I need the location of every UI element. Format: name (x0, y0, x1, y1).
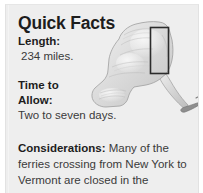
fact-time-label-line1: Time to (18, 78, 199, 93)
page-title: Quick Facts (18, 13, 199, 33)
fact-time-label-line2: Allow: (18, 93, 199, 108)
quick-facts-panel: Quick Facts Length: 234 miles. Time to A… (0, 0, 203, 193)
panel-background: Quick Facts Length: 234 miles. Time to A… (5, 4, 199, 193)
fact-length: Length: 234 miles. (18, 34, 199, 64)
fact-considerations-label: Considerations: (18, 142, 106, 154)
fact-time-to-allow: Time to Allow: Two to seven days. (18, 78, 199, 123)
fact-considerations: Considerations: Many of the ferries cros… (18, 140, 198, 188)
quick-facts-content: Quick Facts Length: 234 miles. Time to A… (18, 13, 199, 188)
fact-length-value: 234 miles. (18, 49, 199, 64)
fact-time-value: Two to seven days. (18, 108, 199, 123)
fact-length-label: Length: (18, 34, 199, 49)
